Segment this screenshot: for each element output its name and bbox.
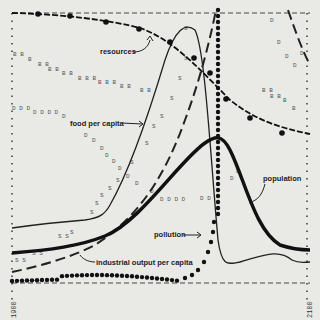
svg-text:B B: B B: [140, 87, 151, 94]
label-pollution: pollution: [154, 230, 186, 239]
svg-text:D: D: [293, 62, 297, 69]
svg-text:B B: B B: [270, 93, 281, 100]
svg-text:B B: B B: [120, 83, 131, 90]
svg-text:D D D D: D D D D: [33, 109, 59, 116]
svg-text:D: D: [230, 175, 234, 182]
svg-text:B B: B B: [48, 66, 59, 73]
svg-text:D D D: D D D: [12, 105, 30, 112]
svg-text:D: D: [112, 158, 116, 165]
svg-text:D: D: [277, 39, 281, 46]
svg-text:S S: S S: [58, 233, 69, 240]
label-resources: resources: [100, 47, 136, 56]
svg-text:D D D D: D D D D: [160, 196, 186, 203]
svg-text:S S: S S: [15, 257, 26, 264]
svg-text:B B B: B B B: [78, 75, 96, 82]
label-food-per-capita: food per capita: [70, 119, 125, 128]
svg-text:B: B: [292, 105, 296, 112]
x-tick-1900: 1900: [10, 301, 18, 318]
world-model-chart: B B B B B B B B B B B B B B B B B B B B …: [0, 0, 320, 320]
svg-text:D: D: [92, 137, 96, 144]
svg-text:B B B: B B B: [98, 79, 116, 86]
svg-text:S: S: [70, 229, 74, 236]
svg-text:S: S: [100, 192, 104, 199]
svg-text:S: S: [184, 25, 188, 32]
svg-text:D: D: [62, 113, 66, 120]
svg-text:D: D: [105, 152, 109, 159]
svg-text:D: D: [118, 165, 122, 172]
label-industrial-output: industrial output per capita: [96, 258, 194, 267]
svg-text:D: D: [84, 132, 88, 139]
svg-text:S: S: [116, 177, 120, 184]
svg-text:B B: B B: [62, 70, 73, 77]
svg-text:D D: D D: [200, 195, 211, 202]
svg-text:S: S: [108, 185, 112, 192]
svg-text:B B: B B: [13, 51, 24, 58]
svg-text:D: D: [135, 180, 139, 187]
svg-text:S: S: [145, 140, 149, 147]
svg-text:S: S: [178, 75, 182, 82]
industrial-output-line-return: [288, 10, 310, 65]
birth-rate-markers: B B B B B B B B B B B B B B B B B B B B …: [13, 51, 296, 112]
label-population: population: [263, 174, 302, 183]
svg-text:D: D: [285, 53, 289, 60]
svg-text:D: D: [270, 17, 274, 24]
x-tick-2100: 2100: [306, 301, 314, 318]
svg-text:S: S: [160, 113, 164, 120]
plot-frame: [12, 13, 310, 300]
svg-text:B: B: [283, 97, 287, 104]
death-rate-markers: D D D D D D D D D D D D D D D D D D D D …: [12, 17, 304, 203]
svg-text:S: S: [170, 95, 174, 102]
svg-text:B: B: [28, 56, 32, 63]
svg-text:D: D: [100, 145, 104, 152]
svg-text:S: S: [95, 200, 99, 207]
svg-text:D: D: [126, 173, 130, 180]
svg-text:S: S: [90, 209, 94, 216]
svg-text:S: S: [152, 123, 156, 130]
